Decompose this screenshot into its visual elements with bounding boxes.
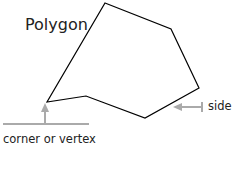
vertex-arrow-icon	[3, 103, 89, 124]
vertex-label: corner or vertex	[3, 132, 96, 146]
side-label: side	[208, 99, 232, 113]
diagram-title: Polygon	[25, 15, 88, 34]
polygon-diagram: Polygon corner or vertex side	[0, 0, 235, 191]
side-arrow-icon	[173, 102, 202, 112]
